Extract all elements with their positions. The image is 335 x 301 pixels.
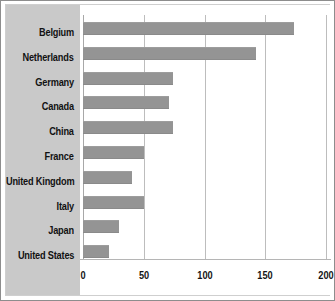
bar-united-states[interactable] — [83, 245, 109, 258]
category-label-belgium: Belgium — [39, 26, 74, 39]
category-label-japan: Japan — [48, 224, 74, 237]
category-axis-panel: BelgiumNetherlandsGermanyCanadaChinaFran… — [6, 5, 80, 295]
bar-chart-figure: BelgiumNetherlandsGermanyCanadaChinaFran… — [0, 0, 335, 301]
gridline-150 — [265, 15, 266, 260]
bar-japan[interactable] — [83, 220, 119, 233]
category-label-france: France — [45, 150, 74, 163]
category-label-united-kingdom: United Kingdom — [6, 175, 74, 188]
category-label-netherlands: Netherlands — [23, 51, 74, 64]
x-tick-label-100: 100 — [197, 270, 212, 281]
category-label-italy: Italy — [57, 200, 74, 213]
x-tick-label-150: 150 — [258, 270, 273, 281]
category-label-united-states: United States — [18, 249, 74, 262]
x-tick-label-200: 200 — [318, 270, 333, 281]
x-tick-label-0: 0 — [80, 270, 85, 281]
bar-netherlands[interactable] — [83, 47, 256, 60]
category-label-germany: Germany — [35, 76, 74, 89]
bar-germany[interactable] — [83, 72, 173, 85]
bar-italy[interactable] — [83, 196, 144, 209]
category-label-canada: Canada — [42, 100, 74, 113]
plot-area: 050100150200 — [80, 5, 331, 295]
bar-france[interactable] — [83, 146, 144, 159]
x-axis-baseline — [80, 259, 331, 260]
bar-united-kingdom[interactable] — [83, 171, 132, 184]
bar-canada[interactable] — [83, 96, 169, 109]
x-tick-label-50: 50 — [139, 270, 149, 281]
gridline-200 — [326, 15, 327, 260]
category-label-china: China — [49, 125, 74, 138]
bar-belgium[interactable] — [83, 22, 294, 35]
bar-china[interactable] — [83, 121, 173, 134]
